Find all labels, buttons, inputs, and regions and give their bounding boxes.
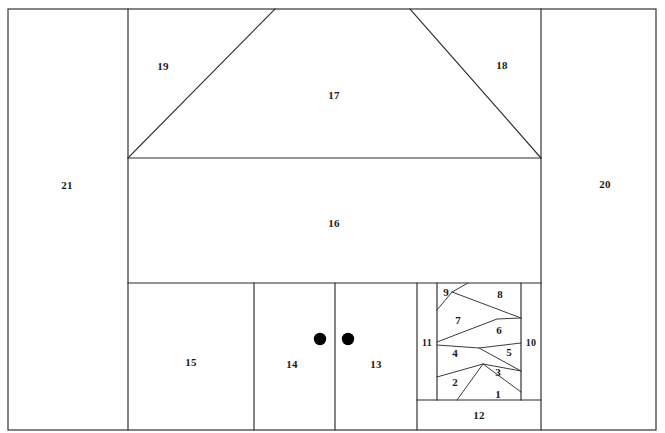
region-label-21: 21: [61, 179, 72, 191]
region-label-14: 14: [286, 358, 298, 370]
region-label-18: 18: [496, 59, 508, 71]
region-label-11: 11: [422, 337, 432, 348]
region-label-8: 8: [497, 288, 503, 300]
region-label-15: 15: [185, 356, 197, 368]
line-diagram-svg: 1 2 3 4 5 6 7 8 9 10 11 12 13 14 15 16 1…: [0, 0, 665, 433]
region-label-5: 5: [506, 346, 512, 358]
region-label-4: 4: [452, 347, 458, 359]
door-marker-right: [342, 333, 354, 345]
region-label-7: 7: [455, 314, 461, 326]
region-label-13: 13: [370, 358, 382, 370]
region-label-12: 12: [473, 409, 485, 421]
door-marker-left: [314, 333, 326, 345]
region-label-9: 9: [443, 286, 449, 298]
region-label-3: 3: [495, 366, 501, 378]
region-label-20: 20: [599, 178, 611, 190]
region-label-17: 17: [328, 89, 340, 101]
region-label-1: 1: [495, 388, 501, 400]
region-label-6: 6: [496, 324, 502, 336]
region-label-2: 2: [452, 376, 458, 388]
region-label-16: 16: [328, 217, 340, 229]
figure-root: 1 2 3 4 5 6 7 8 9 10 11 12 13 14 15 16 1…: [0, 0, 665, 433]
region-label-19: 19: [157, 60, 169, 72]
region-label-10: 10: [526, 337, 536, 348]
